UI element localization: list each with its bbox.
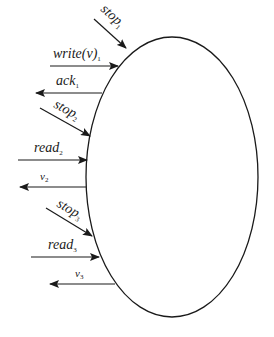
subscript-write1: 1 <box>97 55 101 63</box>
subscript-v3: 3 <box>80 273 84 281</box>
subscript-read3: 3 <box>73 246 77 254</box>
svg-text:stop2: stop2 <box>51 96 83 124</box>
arrow-stop3: stop3 <box>46 196 92 236</box>
svg-text:read2: read2 <box>34 140 63 157</box>
arrow-stop2: stop2 <box>40 96 90 136</box>
arrow-stop1: stop1 <box>94 1 128 48</box>
label-ack1: ack <box>56 73 76 88</box>
svg-text:stop1: stop1 <box>97 1 129 32</box>
label-write1: write(v) <box>53 46 98 62</box>
arrow-ack1: ack1 <box>36 73 102 93</box>
svg-text:stop3: stop3 <box>54 196 86 224</box>
subscript-v2: 2 <box>45 176 49 184</box>
arrow-v3: v3 <box>50 267 115 284</box>
process-ellipse <box>86 37 258 317</box>
svg-text:ack1: ack1 <box>56 73 79 90</box>
arrow-v2: v2 <box>20 170 86 187</box>
arrow-write1: write(v)1 <box>50 46 118 66</box>
arrow-read3: read3 <box>31 237 99 257</box>
svg-text:v3: v3 <box>75 267 84 281</box>
diagram-svg: stop1 write(v)1 ack1 stop2 read2 v2 <box>0 0 274 337</box>
svg-text:read3: read3 <box>48 237 77 254</box>
svg-text:v2: v2 <box>40 170 49 184</box>
svg-text:write(v)1: write(v)1 <box>53 46 101 63</box>
arrow-read2: read2 <box>18 140 87 160</box>
subscript-ack1: 1 <box>75 82 79 90</box>
label-read3: read <box>48 237 74 252</box>
label-read2: read <box>34 140 60 155</box>
subscript-read2: 2 <box>59 149 63 157</box>
diagram-canvas: stop1 write(v)1 ack1 stop2 read2 v2 <box>0 0 274 337</box>
